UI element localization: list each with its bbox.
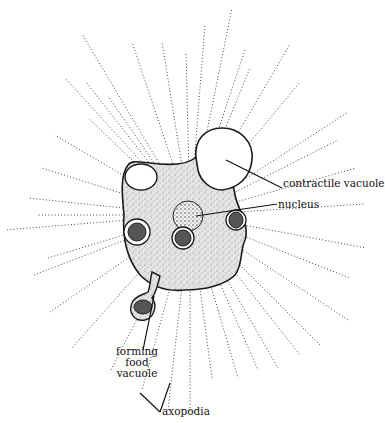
label-axopodia: axopodia (162, 406, 210, 417)
small-vacuole (125, 164, 157, 190)
label-forming-food-vacuole: forming food vacuole (112, 346, 162, 379)
label-contractile-vacuole: contractile vacuole (283, 178, 385, 189)
label-nucleus: nucleus (278, 199, 319, 210)
label-vacuole: vacuole (112, 368, 162, 379)
contractile-vacuole (196, 128, 252, 190)
